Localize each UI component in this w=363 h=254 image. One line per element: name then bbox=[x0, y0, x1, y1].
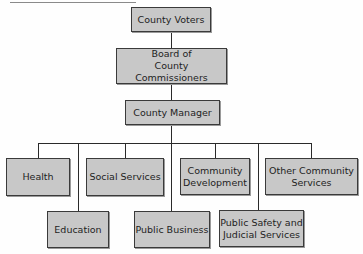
node-label: Education bbox=[54, 224, 101, 236]
node-label-line1: Other Community bbox=[269, 165, 354, 177]
node-public-safety-judicial: Public Safety and Judicial Services bbox=[219, 210, 304, 247]
node-education: Education bbox=[47, 211, 109, 248]
node-county-voters: County Voters bbox=[131, 7, 211, 32]
connector-other bbox=[311, 143, 312, 158]
connector-voters-board bbox=[171, 32, 172, 48]
node-label-line1: Board of bbox=[151, 48, 191, 60]
connector-health bbox=[38, 143, 39, 158]
connector-board-manager bbox=[171, 84, 172, 100]
node-board-of-commissioners: Board of County Commissioners bbox=[116, 48, 227, 84]
node-label: Public Business bbox=[135, 224, 208, 236]
node-label-line2: County Commissioners bbox=[117, 60, 226, 84]
connector-education bbox=[78, 143, 79, 211]
node-label: County Voters bbox=[138, 14, 205, 26]
node-label: Health bbox=[22, 171, 53, 183]
node-label: Social Services bbox=[89, 171, 160, 183]
connector-manager-bus bbox=[171, 125, 172, 143]
node-other-community-services: Other Community Services bbox=[265, 158, 358, 195]
node-label-line1: Public Safety and bbox=[220, 217, 302, 229]
node-label-line2: Services bbox=[291, 177, 331, 189]
node-label-line1: Community bbox=[188, 165, 243, 177]
node-label: County Manager bbox=[133, 107, 212, 119]
connector-public-business bbox=[171, 143, 172, 211]
node-community-development: Community Development bbox=[180, 158, 250, 195]
node-public-business: Public Business bbox=[134, 211, 210, 248]
node-label-line2: Development bbox=[183, 177, 247, 189]
top-rule bbox=[10, 2, 136, 3]
node-label-line2: Judicial Services bbox=[223, 229, 300, 241]
node-health: Health bbox=[6, 158, 70, 196]
node-county-manager: County Manager bbox=[125, 100, 220, 125]
horizontal-bus bbox=[38, 143, 312, 144]
connector-social bbox=[125, 143, 126, 158]
connector-public-safety bbox=[258, 143, 259, 210]
node-social-services: Social Services bbox=[86, 158, 164, 196]
connector-community-dev bbox=[215, 143, 216, 158]
